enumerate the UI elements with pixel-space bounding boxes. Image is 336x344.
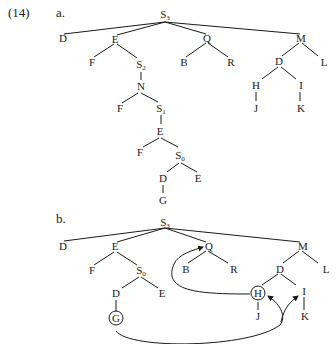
node-b-E2: E bbox=[159, 288, 166, 299]
node-a-F3: F bbox=[137, 147, 143, 158]
node-b-R: R bbox=[230, 264, 237, 275]
node-a-D2: D bbox=[159, 173, 167, 184]
node-b-L: L bbox=[323, 264, 330, 275]
node-a-H: H bbox=[252, 80, 260, 91]
node-a-G: G bbox=[159, 195, 167, 206]
node-a-E: E bbox=[112, 34, 119, 45]
node-a-L: L bbox=[321, 57, 328, 68]
node-a-J: J bbox=[254, 103, 258, 114]
node-b-D: D bbox=[59, 241, 67, 252]
node-a-K: K bbox=[297, 103, 305, 114]
node-b-root: S3 bbox=[160, 217, 170, 228]
node-a-Q: Q bbox=[203, 33, 211, 44]
node-a-F: F bbox=[89, 57, 95, 68]
node-b-D2: D bbox=[112, 288, 120, 299]
tree-edges bbox=[0, 0, 336, 344]
node-b-K: K bbox=[301, 311, 309, 322]
node-b-G-circled: G bbox=[109, 311, 124, 326]
node-a-F2: F bbox=[117, 103, 123, 114]
node-a-root: S3 bbox=[160, 9, 170, 20]
node-b-I: I bbox=[302, 286, 306, 297]
node-a-S2: S2 bbox=[136, 59, 146, 70]
node-b-S0: S0 bbox=[136, 265, 146, 276]
node-a-M: M bbox=[296, 33, 306, 44]
node-b-E: E bbox=[112, 241, 119, 252]
node-b-Q: Q bbox=[205, 241, 213, 252]
node-a-S1: S1 bbox=[156, 103, 166, 114]
node-b-D3: D bbox=[276, 264, 284, 275]
node-b-M: M bbox=[298, 241, 308, 252]
node-b-H-circled: H bbox=[251, 286, 266, 301]
node-a-S0: S0 bbox=[175, 150, 185, 161]
node-a-R: R bbox=[227, 57, 234, 68]
node-b-J: J bbox=[256, 311, 260, 322]
node-b-B: B bbox=[182, 264, 189, 275]
part-a-label: a. bbox=[56, 6, 65, 19]
node-a-D3: D bbox=[275, 56, 283, 67]
node-b-F: F bbox=[89, 265, 95, 276]
node-a-E3: E bbox=[195, 173, 202, 184]
node-a-B: B bbox=[180, 57, 187, 68]
part-b-label: b. bbox=[56, 212, 66, 225]
node-a-I: I bbox=[299, 80, 303, 91]
node-a-N: N bbox=[137, 81, 145, 92]
example-number: (14) bbox=[8, 6, 30, 19]
node-a-D: D bbox=[59, 33, 67, 44]
node-a-E2: E bbox=[157, 126, 164, 137]
